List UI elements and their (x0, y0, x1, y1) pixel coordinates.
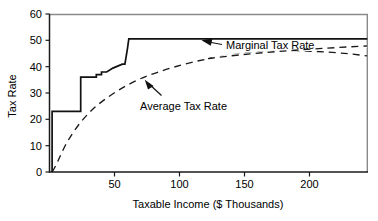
x-tick-label-100: 100 (170, 178, 188, 190)
x-tick-label-150: 150 (235, 178, 253, 190)
y-tick-label-10: 10 (30, 140, 42, 152)
y-axis-title: Tax Rate (6, 74, 18, 117)
marginal-annotation-label: Marginal Tax Rate (226, 39, 314, 51)
y-tick-label-50: 50 (30, 34, 42, 46)
y-tick-label-40: 40 (30, 61, 42, 73)
tax-rate-chart: 0 10 20 30 40 50 60 50 100 150 200 Taxab… (0, 0, 378, 221)
x-tick-label-200: 200 (300, 178, 318, 190)
x-axis-title: Taxable Income ($ Thousands) (133, 198, 284, 210)
y-tick-label-0: 0 (36, 166, 42, 178)
x-tick-label-50: 50 (108, 178, 120, 190)
y-tick-label-20: 20 (30, 113, 42, 125)
average-annotation-label: Average Tax Rate (140, 100, 227, 112)
y-tick-label-30: 30 (30, 87, 42, 99)
y-tick-label-60: 60 (30, 8, 42, 20)
chart-figure: 0 10 20 30 40 50 60 50 100 150 200 Taxab… (0, 0, 378, 221)
